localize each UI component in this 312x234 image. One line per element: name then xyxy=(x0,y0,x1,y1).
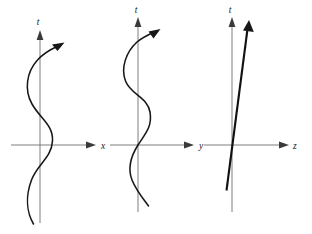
panel-x-t-label: t xyxy=(37,17,40,27)
panel-z-t-label: t xyxy=(229,5,232,15)
panel-z-ray-arrowhead xyxy=(243,20,254,32)
panel-z-straight-ray xyxy=(227,29,248,191)
panel-x-t-axis-arrowhead xyxy=(37,30,44,40)
panel-y-y-label: y xyxy=(198,141,204,151)
panel-x-curve-arrowhead xyxy=(52,43,65,52)
panel-z-t-axis-arrowhead xyxy=(229,17,236,27)
panel-y-curve-arrowhead xyxy=(149,29,161,39)
panel-z: t z xyxy=(204,5,297,212)
panel-y-sinusoid xyxy=(124,32,155,206)
panel-x: t x xyxy=(11,17,106,224)
three-component-waveform-figure: t x t y xyxy=(0,0,312,234)
panel-x-x-label: x xyxy=(100,141,106,151)
panel-z-z-axis-arrowhead xyxy=(279,142,289,149)
panel-x-sinusoid xyxy=(27,46,58,224)
panel-y-t-axis-arrowhead xyxy=(135,17,142,27)
panel-z-z-label: z xyxy=(292,141,297,151)
panel-y-y-axis-arrowhead xyxy=(184,142,194,149)
figure-container: t x t y xyxy=(0,0,312,234)
panel-x-x-axis-arrowhead xyxy=(86,142,96,149)
panel-y: t y xyxy=(110,5,204,212)
panel-y-t-label: t xyxy=(135,5,138,15)
